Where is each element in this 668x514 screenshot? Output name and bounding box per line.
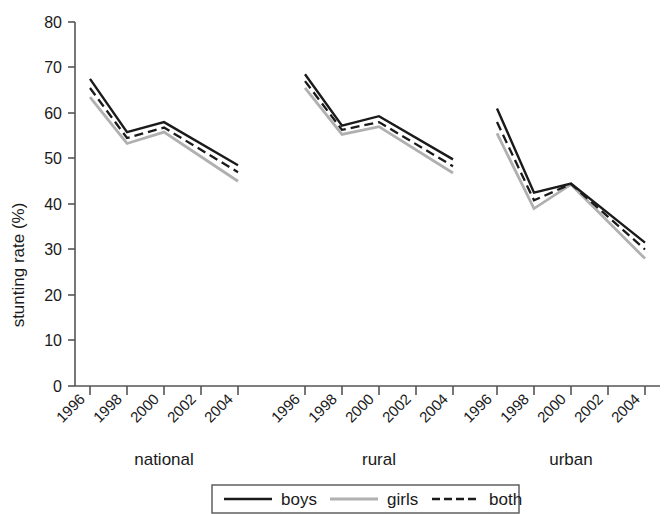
x-tick-label-national-2004: 2004 <box>201 390 237 426</box>
group-label-urban: urban <box>549 450 592 469</box>
y-tick-label-10: 10 <box>44 332 62 349</box>
group-label-rural: rural <box>362 450 396 469</box>
y-tick-label-60: 60 <box>44 105 62 122</box>
line-rural-both <box>305 81 453 166</box>
y-tick-label-20: 20 <box>44 287 62 304</box>
x-tick-label-urban-2002: 2002 <box>571 390 607 426</box>
group-labels: national rural urban <box>134 450 593 469</box>
x-tick-label-urban-2000: 2000 <box>534 390 570 426</box>
y-tick-label-80: 80 <box>44 14 62 31</box>
x-tick-label-rural-1996: 1996 <box>268 390 304 426</box>
x-tick-label-urban-1998: 1998 <box>497 390 533 426</box>
legend-label-both: both <box>489 490 522 509</box>
x-tick-label-rural-2004: 2004 <box>416 390 452 426</box>
y-tick-label-50: 50 <box>44 150 62 167</box>
chart-legend: boys girls both <box>212 485 522 513</box>
x-tick-label-national-1998: 1998 <box>90 390 126 426</box>
x-tick-label-urban-1996: 1996 <box>460 390 496 426</box>
x-tick-label-urban-2004: 2004 <box>608 390 644 426</box>
y-tick-label-40: 40 <box>44 196 62 213</box>
line-national-boys <box>90 79 238 165</box>
line-national-both <box>90 88 238 172</box>
x-tick-label-rural-2000: 2000 <box>342 390 378 426</box>
series-group-national <box>90 79 238 181</box>
group-label-national: national <box>134 450 194 469</box>
y-axis-title: stunting rate (%) <box>9 203 28 328</box>
y-tick-label-0: 0 <box>53 378 62 395</box>
y-tick-label-70: 70 <box>44 59 62 76</box>
series-group-urban <box>497 108 645 258</box>
x-tick-label-rural-2002: 2002 <box>379 390 415 426</box>
x-tick-label-national-2000: 2000 <box>127 390 163 426</box>
stunting-rate-line-chart: 80 70 60 50 40 30 20 10 0 stunting rate … <box>0 0 668 514</box>
x-tick-labels: 1996 1998 2000 2002 2004 1996 1998 2000 … <box>53 390 644 426</box>
y-axis: 80 70 60 50 40 30 20 10 0 stunting rate … <box>9 14 75 395</box>
series-group-rural <box>305 74 453 173</box>
x-tick-label-national-1996: 1996 <box>53 390 89 426</box>
x-tick-label-rural-1998: 1998 <box>305 390 341 426</box>
line-rural-girls <box>305 88 453 173</box>
line-urban-girls <box>497 133 645 258</box>
y-tick-label-30: 30 <box>44 241 62 258</box>
legend-label-boys: boys <box>281 490 317 509</box>
legend-label-girls: girls <box>387 490 418 509</box>
x-tick-label-national-2002: 2002 <box>164 390 200 426</box>
chart-figure: 80 70 60 50 40 30 20 10 0 stunting rate … <box>0 0 668 514</box>
